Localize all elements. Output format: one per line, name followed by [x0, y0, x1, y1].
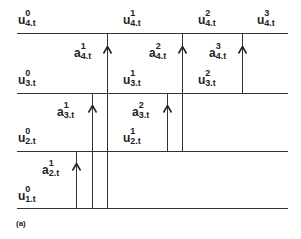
label-superscript: 1	[130, 9, 135, 18]
u-label-u41: u14.t	[123, 14, 141, 28]
a-label-a43: a34.t	[209, 47, 226, 61]
label-superscript: 2	[139, 101, 144, 110]
u-label-u42: u24.t	[198, 14, 216, 28]
label-superscript: 0	[25, 127, 30, 136]
label-base: a	[149, 46, 156, 60]
arrow-up-icon	[163, 105, 172, 113]
label-base: u	[123, 73, 130, 87]
u-label-u43: u34.t	[257, 14, 275, 28]
level-line-2	[17, 151, 288, 152]
label-base: u	[198, 73, 205, 87]
vertical-connector	[107, 33, 108, 208]
arrow-up-icon	[72, 163, 81, 171]
label-superscript: 0	[25, 9, 30, 18]
label-superscript: 2	[205, 69, 210, 78]
level-line-4	[17, 33, 288, 34]
a-label-a31: a13.t	[57, 106, 74, 120]
label-base: u	[18, 131, 25, 145]
vertical-connector	[167, 93, 168, 151]
level-line-3	[17, 93, 288, 94]
a-label-a32: a23.t	[132, 106, 149, 120]
vertical-connector	[76, 151, 77, 208]
u-label-u10: u01.t	[18, 190, 36, 204]
label-base: u	[257, 13, 264, 27]
label-base: u	[18, 13, 25, 27]
arrow-up-icon	[238, 46, 247, 54]
label-superscript: 1	[81, 42, 86, 51]
label-superscript: 2	[156, 42, 161, 51]
label-superscript: 3	[216, 42, 221, 51]
u-label-u20: u02.t	[18, 132, 36, 146]
u-label-u32: u23.t	[198, 74, 216, 88]
figure-caption: (a)	[16, 219, 26, 228]
a-label-a42: a24.t	[149, 47, 166, 61]
label-base: a	[74, 46, 81, 60]
a-label-a21: a12.t	[42, 164, 59, 178]
label-superscript: 3	[264, 9, 269, 18]
arrow-up-icon	[103, 46, 112, 54]
label-base: u	[18, 73, 25, 87]
a-label-a41: a14.t	[74, 47, 91, 61]
level-line-1	[17, 208, 288, 209]
label-superscript: 2	[205, 9, 210, 18]
label-base: a	[42, 163, 49, 177]
arrow-up-icon	[178, 46, 187, 54]
label-base: u	[198, 13, 205, 27]
label-superscript: 1	[130, 127, 135, 136]
u-label-u21: u12.t	[123, 132, 141, 146]
arrow-up-icon	[88, 105, 97, 113]
vertical-connector	[242, 33, 243, 93]
u-label-u30: u03.t	[18, 74, 36, 88]
label-base: u	[123, 13, 130, 27]
label-superscript: 0	[25, 69, 30, 78]
label-base: a	[209, 46, 216, 60]
u-label-u31: u13.t	[123, 74, 141, 88]
label-superscript: 1	[49, 159, 54, 168]
label-superscript: 0	[25, 185, 30, 194]
label-base: u	[123, 131, 130, 145]
label-superscript: 1	[130, 69, 135, 78]
label-base: u	[18, 189, 25, 203]
label-base: a	[132, 105, 139, 119]
label-superscript: 1	[64, 101, 69, 110]
u-label-u40: u04.t	[18, 14, 36, 28]
label-base: a	[57, 105, 64, 119]
